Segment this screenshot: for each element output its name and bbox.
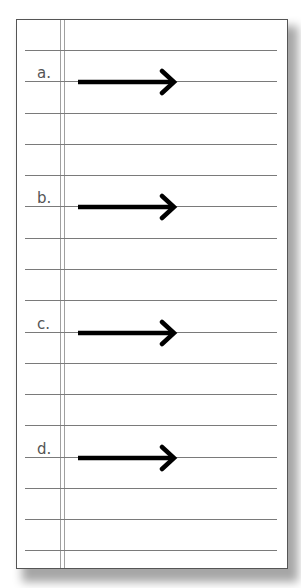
right-arrow-icon xyxy=(76,444,178,472)
rule-line xyxy=(25,113,277,114)
rule-line xyxy=(25,550,277,551)
rule-line xyxy=(25,50,277,51)
rule-line xyxy=(25,519,277,520)
item-a-label: a. xyxy=(37,66,51,81)
right-arrow-icon xyxy=(76,68,178,96)
right-arrow-icon xyxy=(76,193,178,221)
rule-line xyxy=(25,144,277,145)
margin-line-left xyxy=(60,20,61,568)
rule-line xyxy=(25,238,277,239)
item-b-label: b. xyxy=(37,191,51,206)
rule-line xyxy=(25,300,277,301)
lined-paper: a. b. c. d. xyxy=(16,19,288,569)
rule-line xyxy=(25,363,277,364)
item-d-label: d. xyxy=(37,442,51,457)
rule-line xyxy=(25,488,277,489)
right-arrow-icon xyxy=(76,319,178,347)
margin-line-right xyxy=(64,20,65,568)
rule-line xyxy=(25,394,277,395)
item-c-label: c. xyxy=(37,317,50,332)
rule-line xyxy=(25,175,277,176)
rule-line xyxy=(25,269,277,270)
rule-line xyxy=(25,425,277,426)
